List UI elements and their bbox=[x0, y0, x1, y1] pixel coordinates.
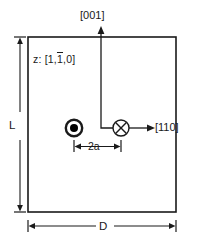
width-arrowhead-left bbox=[29, 223, 36, 229]
height-arrowhead-bottom bbox=[17, 205, 23, 212]
separation-arrowhead-left bbox=[75, 144, 82, 150]
axis-horizontal-arrowhead bbox=[147, 125, 155, 132]
diagram-canvas bbox=[0, 0, 219, 241]
width-arrowhead-right bbox=[169, 223, 176, 229]
zone-axis-suffix: ,0] bbox=[63, 53, 75, 65]
width-dimension-label: D bbox=[99, 221, 107, 233]
height-dimension-label: L bbox=[9, 120, 15, 132]
height-arrowhead-top bbox=[17, 38, 23, 45]
zone-axis-label: z: [1,1,0] bbox=[33, 54, 75, 65]
axis-horizontal-label: [110] bbox=[155, 122, 179, 133]
axis-vertical-line bbox=[101, 33, 113, 128]
axis-vertical-label: [001] bbox=[80, 10, 104, 21]
axis-vertical-arrowhead bbox=[98, 26, 105, 34]
separation-dimension-label: 2a bbox=[88, 141, 100, 152]
separation-arrowhead-right bbox=[114, 144, 121, 150]
dislocation-out-of-page-dot bbox=[70, 124, 78, 132]
zone-axis-prefix: z: [1, bbox=[33, 53, 57, 65]
crystal-cross-section-diagram: [001] [110] z: [1,1,0] L D 2a bbox=[0, 0, 219, 241]
